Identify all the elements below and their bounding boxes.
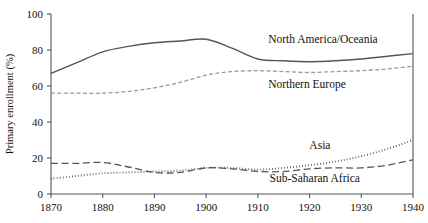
x-tick-label: 1880 <box>92 201 115 213</box>
x-tick-label: 1890 <box>143 201 166 213</box>
series-line-northern-europe <box>51 66 413 93</box>
y-axis-ticks: 020406080100 <box>27 8 52 200</box>
x-tick-label: 1870 <box>40 201 63 213</box>
x-tick-label: 1910 <box>247 201 270 213</box>
x-tick-label: 1900 <box>195 201 218 213</box>
y-axis-title-group: Primary enrollment (%) <box>4 53 16 154</box>
y-tick-label: 100 <box>27 8 44 20</box>
series-labels: North America/OceaniaNorthern EuropeAsia… <box>268 33 378 185</box>
series-line-sub-saharan-africa <box>51 160 413 173</box>
series-label-sub-saharan-africa: Sub-Saharan Africa <box>270 172 360 184</box>
y-tick-label: 0 <box>38 188 44 200</box>
line-chart: Primary enrollment (%) 020406080100 1870… <box>0 0 428 223</box>
y-tick-label: 80 <box>32 44 44 56</box>
series-lines <box>51 39 413 179</box>
y-tick-label: 20 <box>32 152 44 164</box>
y-tick-label: 60 <box>32 80 44 92</box>
x-tick-label: 1940 <box>402 201 425 213</box>
y-axis-title: Primary enrollment (%) <box>4 53 16 154</box>
x-tick-label: 1930 <box>350 201 373 213</box>
x-tick-label: 1920 <box>299 201 322 213</box>
series-label-north-america-oceania: North America/Oceania <box>268 33 378 45</box>
x-axis-ticks: 18701880189019001910192019301940 <box>40 194 425 213</box>
y-tick-label: 40 <box>32 116 44 128</box>
series-label-asia: Asia <box>309 139 330 151</box>
chart-container: Primary enrollment (%) 020406080100 1870… <box>0 0 428 223</box>
series-label-northern-europe: Northern Europe <box>268 78 346 91</box>
